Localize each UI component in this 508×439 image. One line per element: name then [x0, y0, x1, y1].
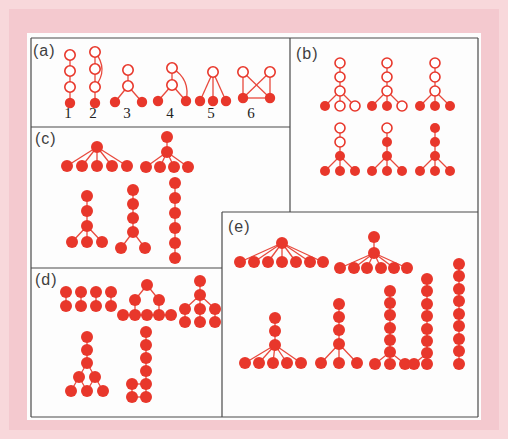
graph-number-6: 6 [247, 105, 255, 121]
graph-c-3-filled-node [96, 236, 108, 248]
panel-label-a: (a) [33, 42, 56, 60]
graph-d-3-filled-node [179, 303, 191, 315]
graph-d-4-filled-node [73, 371, 85, 383]
graph-e-7-filled-node [453, 320, 465, 332]
graph-b-1-open-node [335, 101, 345, 111]
graph-c-5-filled-node [169, 192, 181, 204]
graph-d-4-filled-node [97, 385, 109, 397]
graph-c-2-filled-node [168, 161, 180, 173]
graph-b-3-open-node [430, 72, 440, 82]
graph-a-5-filled-node [221, 96, 231, 106]
graph-a-3-open-node [123, 65, 133, 75]
graph-c-4-filled-node [127, 226, 139, 238]
graph-d-1-filled-node [60, 286, 72, 298]
graph-e-3-filled-node [281, 357, 293, 369]
graph-d-3-filled-node [209, 316, 221, 328]
graph-e-7-filled-node [453, 333, 465, 345]
graph-b-4-filled-node [335, 151, 345, 161]
graph-c-1-filled-node [106, 160, 118, 172]
graph-d-3-filled-node [194, 303, 206, 315]
graph-e-2-filled-node [388, 262, 400, 274]
graph-a-6-filled-node [265, 93, 275, 103]
graph-number-3: 3 [123, 105, 131, 121]
graph-e-2-filled-node [348, 262, 360, 274]
graph-b-3-filled-node [415, 101, 425, 111]
graph-e-6-filled-node [421, 335, 433, 347]
graph-e-2-filled-node [334, 262, 346, 274]
graph-a-4-open-node [167, 63, 177, 73]
graph-b-1-filled-node [320, 101, 330, 111]
graph-e-7-filled-node [453, 308, 465, 320]
graph-d-4-filled-node [81, 331, 93, 343]
graph-e-4-filled-node [333, 324, 345, 336]
graph-b-6-filled-node [430, 151, 440, 161]
graph-d-5-filled-node [140, 391, 152, 403]
graph-e-3-filled-node [253, 357, 265, 369]
graph-e-2-filled-node [401, 262, 413, 274]
graph-d-2-filled-node [165, 309, 177, 321]
graph-e-1-filled-node [304, 256, 316, 268]
graph-c-3-filled-node [81, 236, 93, 248]
graph-d-2-filled-node [153, 294, 165, 306]
graph-c-2-filled-node [161, 131, 173, 143]
graph-b-5-open-node [382, 123, 392, 133]
graph-e-1-filled-node [290, 256, 302, 268]
graph-number-1: 1 [64, 105, 72, 121]
graph-b-6-filled-node [445, 166, 455, 176]
graph-e-5-filled-node [384, 334, 396, 346]
graph-b-5-filled-node [397, 166, 407, 176]
graph-b-6-filled-node [430, 137, 440, 147]
graph-e-7-filled-node [453, 283, 465, 295]
graph-d-4-filled-node [81, 344, 93, 356]
graph-b-3-open-node [430, 86, 440, 96]
graph-a-4-open-node [167, 80, 177, 90]
graph-e-4-filled-node [333, 357, 345, 369]
graph-d-5-filled-node [140, 339, 152, 351]
graph-b-4-filled-node [320, 166, 330, 176]
graph-e-1-filled-node [317, 256, 329, 268]
graph-d-5-filled-node [140, 326, 152, 338]
graph-e-7-filled-node [453, 295, 465, 307]
graph-d-1-filled-node [75, 300, 87, 312]
graph-e-5-filled-node [384, 358, 396, 370]
graph-e-5-filled-node [384, 346, 396, 358]
graph-b-2-open-node [382, 58, 392, 68]
graph-e-1-filled-node [234, 256, 246, 268]
graph-e-3-filled-node [295, 357, 307, 369]
graph-a-5-open-node [208, 67, 218, 77]
graph-a-3-filled-node [110, 97, 120, 107]
graph-d-1-filled-node [105, 286, 117, 298]
graph-b-2-filled-node [367, 101, 377, 111]
graph-b-5-filled-node [382, 151, 392, 161]
graph-b-5-filled-node [367, 166, 377, 176]
graph-e-6-filled-node [408, 358, 420, 370]
graph-c-4-filled-node [127, 198, 139, 210]
graph-c-1-filled-node [121, 160, 133, 172]
graph-a-2-open-node [90, 47, 100, 57]
graph-d-3-filled-node [194, 289, 206, 301]
graph-d-1-filled-node [105, 300, 117, 312]
graph-number-4: 4 [166, 105, 174, 121]
graph-e-2-filled-node [375, 262, 387, 274]
graph-d-2-filled-node [117, 309, 129, 321]
graph-e-1-filled-node [248, 256, 260, 268]
graph-d-5-filled-node [126, 378, 138, 390]
figure-scan: 123456 (a) (b) (c) (d) (e) [0, 0, 508, 439]
graph-b-6-filled-node [415, 166, 425, 176]
panel-label-e: (e) [228, 218, 251, 236]
graph-c-5-filled-node [169, 237, 181, 249]
graph-e-3-filled-node [267, 357, 279, 369]
graph-d-2-filled-node [141, 279, 153, 291]
graph-e-5-filled-node [384, 309, 396, 321]
graph-a-6-open-node [265, 67, 275, 77]
graph-c-3-filled-node [81, 205, 93, 217]
graph-e-7-filled-node [453, 358, 465, 370]
graph-b-6-filled-node [430, 166, 440, 176]
graph-d-1-filled-node [90, 286, 102, 298]
graph-d-4-filled-node [81, 357, 93, 369]
graph-a-5-filled-node [195, 96, 205, 106]
graph-d-5-filled-node [140, 365, 152, 377]
graph-c-1-filled-node [91, 160, 103, 172]
graph-c-3-filled-node [81, 190, 93, 202]
graph-e-7-filled-node [453, 258, 465, 270]
